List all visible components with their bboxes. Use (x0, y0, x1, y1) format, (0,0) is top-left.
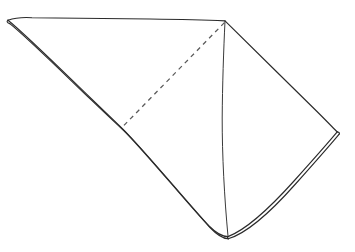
folded-paper-diagram (0, 0, 355, 252)
figure-root (0, 0, 355, 252)
bottom-corner-cap-line (227, 237, 228, 239)
